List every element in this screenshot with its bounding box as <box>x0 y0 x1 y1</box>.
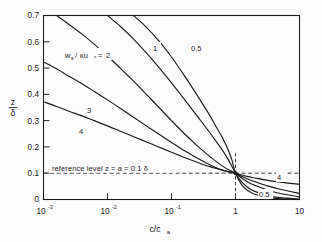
curve-label-3: 3 <box>87 106 91 115</box>
y-axis-numerator: z <box>11 97 15 107</box>
y-tick-label: 0.4 <box>28 90 40 99</box>
curve-label-2: 2 <box>106 51 110 60</box>
y-tick-label: 0.7 <box>28 11 40 20</box>
svg-text:1: 1 <box>233 207 238 216</box>
x-tick-label: 10 <box>295 207 305 216</box>
svg-text:-2: -2 <box>112 204 117 210</box>
y-tick-label: 0.6 <box>28 38 40 47</box>
y-tick-label: 0.1 <box>28 169 40 178</box>
curve-label-0_5: 0.5 <box>191 44 202 53</box>
x-tick-label: 1 <box>233 207 238 216</box>
svg-text:-1: -1 <box>176 204 181 210</box>
x-tick-label: 10 -2 <box>100 204 117 216</box>
curve-label-right-0_5: 0.5 <box>259 190 270 199</box>
parameter-numerator: w <box>64 51 71 60</box>
figure-container: 0 0.1 0.2 0.3 0.4 0.5 0.6 0.7 0 z δ <box>0 0 322 242</box>
y-axis-title: 0 z δ <box>9 97 17 118</box>
svg-text:10: 10 <box>100 207 110 216</box>
chart-canvas: 0 0.1 0.2 0.3 0.4 0.5 0.6 0.7 0 z δ <box>0 0 322 242</box>
parameter-equals: = <box>98 51 102 60</box>
reference-level-annotation: reference level z = a = 0.1 δ <box>52 164 148 173</box>
svg-text:10: 10 <box>164 207 174 216</box>
x-axis-title-text: c/c <box>150 224 162 234</box>
x-axis-title-subscript: a <box>167 229 171 235</box>
curve-label-right-4: 4 <box>277 173 281 182</box>
curve-label-4: 4 <box>79 127 83 136</box>
y-tick-label: 0.5 <box>28 64 40 73</box>
svg-text:10: 10 <box>36 207 46 216</box>
svg-text:10: 10 <box>295 207 305 216</box>
parameter-denominator: κu <box>80 51 88 60</box>
x-axis-title: c/c a <box>150 224 171 235</box>
parameter-numerator-sub: s <box>71 55 74 61</box>
convergence-point-marker <box>234 171 238 175</box>
x-axis-tick-labels: 10 -3 10 -2 10 -1 1 10 <box>36 204 304 216</box>
curve-inline-labels: 1 0.5 3 4 4 0.5 <box>78 42 285 199</box>
y-axis-denominator: δ <box>11 108 16 118</box>
y-tick-label: 0.2 <box>28 143 40 152</box>
x-tick-label: 10 -3 <box>36 204 53 216</box>
y-axis-tick-labels: 0 0.1 0.2 0.3 0.4 0.5 0.6 0.7 <box>28 11 40 204</box>
y-axis-ticks <box>44 16 50 200</box>
curve-label-1: 1 <box>153 44 157 53</box>
y-tick-label: 0 <box>34 195 39 204</box>
y-tick-label: 0.3 <box>28 117 40 126</box>
x-tick-label: 10 -1 <box>164 204 181 216</box>
svg-text:-3: -3 <box>48 204 53 210</box>
